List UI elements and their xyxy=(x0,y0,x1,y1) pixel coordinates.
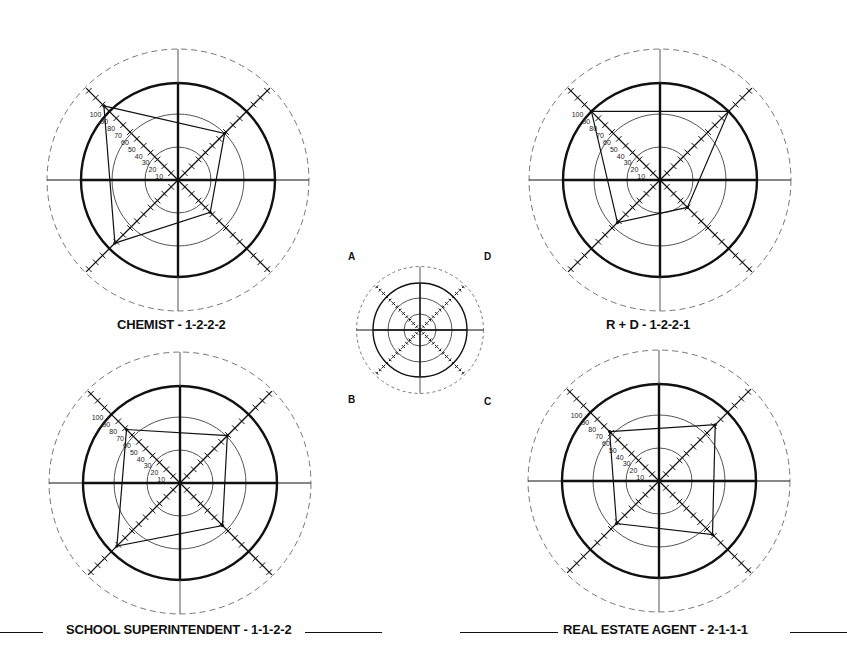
scale-label: 50 xyxy=(610,146,618,153)
data-point-d xyxy=(223,132,226,135)
data-point-a xyxy=(608,430,611,433)
scale-label: 40 xyxy=(135,153,143,160)
scale-label: 40 xyxy=(137,456,145,463)
data-point-c xyxy=(686,206,689,209)
data-point-d xyxy=(226,434,229,437)
radar-chart-school-superintendent: 102030405060708090100 xyxy=(49,352,311,614)
underline-rule xyxy=(305,632,382,633)
data-point-a xyxy=(125,428,128,431)
data-point-c xyxy=(209,211,212,214)
axis-tick xyxy=(422,332,425,335)
legend-label-c: C xyxy=(484,396,491,407)
radar-chart-r-and-d: 102030405060708090100 xyxy=(529,49,791,311)
legend-label-b: B xyxy=(348,394,355,405)
data-point-d xyxy=(727,110,730,113)
scale-label: 10 xyxy=(155,173,163,180)
scale-label: 30 xyxy=(142,159,150,166)
scale-label: 50 xyxy=(130,449,138,456)
scale-label: 60 xyxy=(603,139,611,146)
scale-label: 30 xyxy=(623,460,631,467)
data-point-b xyxy=(113,242,116,245)
center-dot xyxy=(178,481,182,485)
axis-tick xyxy=(432,315,435,318)
scale-label: 90 xyxy=(582,118,590,125)
scale-label: 30 xyxy=(624,159,632,166)
axis-tick xyxy=(415,325,418,328)
scale-label: 70 xyxy=(116,435,124,442)
data-point-a xyxy=(102,104,105,107)
axis-legend-diagram xyxy=(357,267,484,394)
scale-label: 60 xyxy=(121,139,129,146)
axis-tick xyxy=(405,315,408,318)
center-dot xyxy=(418,328,422,332)
data-point-b xyxy=(115,545,118,548)
data-point-c xyxy=(221,524,224,527)
radar-chart-chemist: 102030405060708090100 xyxy=(47,49,309,311)
underline-rule xyxy=(790,632,847,633)
scale-label: 20 xyxy=(630,166,638,173)
scale-label: 20 xyxy=(148,166,156,173)
scale-label: 10 xyxy=(636,474,644,481)
scale-label: 80 xyxy=(107,125,115,132)
scale-label: 50 xyxy=(609,447,617,454)
scale-label: 100 xyxy=(571,412,583,419)
center-dot xyxy=(658,178,662,182)
axis-tick xyxy=(405,342,408,345)
center-dot xyxy=(176,178,180,182)
chart-title-chemist: CHEMIST - 1-2-2-2 xyxy=(117,317,226,332)
underline-rule xyxy=(0,632,43,633)
axis-tick xyxy=(422,325,425,328)
data-point-b xyxy=(615,522,618,525)
data-point-d xyxy=(714,423,717,426)
scale-label: 30 xyxy=(144,462,152,469)
scale-label: 80 xyxy=(588,426,596,433)
center-dot xyxy=(657,479,661,483)
data-point-a xyxy=(590,110,593,113)
scale-label: 20 xyxy=(629,467,637,474)
chart-title-real-estate-agent: REAL ESTATE AGENT - 2-1-1-1 xyxy=(563,622,748,637)
legend-label-d: D xyxy=(484,251,491,262)
axis-tick xyxy=(415,332,418,335)
scale-label: 70 xyxy=(595,433,603,440)
chart-title-school-superintendent: SCHOOL SUPERINTENDENT - 1-1-2-2 xyxy=(66,622,291,637)
scale-label: 50 xyxy=(128,146,136,153)
scale-label: 100 xyxy=(572,111,584,118)
radar-chart-real-estate-agent: 102030405060708090100 xyxy=(528,350,790,612)
legend-label-a: A xyxy=(348,251,355,262)
scale-label: 90 xyxy=(581,419,589,426)
scale-label: 70 xyxy=(114,132,122,139)
scale-label: 20 xyxy=(150,469,158,476)
axis-tick xyxy=(432,342,435,345)
scale-label: 60 xyxy=(602,440,610,447)
chart-title-r-and-d: R + D - 1-2-2-1 xyxy=(606,317,690,332)
profile-polygon xyxy=(117,430,227,547)
scale-label: 40 xyxy=(616,454,624,461)
scale-label: 40 xyxy=(617,153,625,160)
data-point-c xyxy=(711,533,714,536)
data-point-b xyxy=(616,221,619,224)
scale-label: 10 xyxy=(637,173,645,180)
scale-label: 60 xyxy=(123,442,131,449)
underline-rule xyxy=(460,632,558,633)
scale-label: 10 xyxy=(157,476,165,483)
scale-label: 100 xyxy=(90,111,102,118)
scale-label: 90 xyxy=(102,421,110,428)
scale-label: 100 xyxy=(92,414,104,421)
scale-label: 80 xyxy=(109,428,117,435)
